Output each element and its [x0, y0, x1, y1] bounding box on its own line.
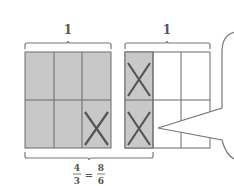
left-whole-label: 1	[64, 23, 72, 37]
left-whole-grid	[25, 52, 111, 148]
bottom-brace	[25, 152, 153, 160]
right-whole-label: 1	[163, 23, 171, 37]
equals-sign: =	[85, 169, 93, 180]
right-numerator: 8	[98, 163, 104, 173]
top-brace-right	[125, 41, 210, 49]
right-denominator: 6	[98, 176, 104, 186]
fraction-diagram: 1 1 4	[0, 0, 234, 186]
left-numerator: 4	[74, 163, 80, 173]
fraction-equation: 4 3 = 8 6	[73, 163, 105, 186]
top-brace-left	[25, 41, 111, 49]
left-denominator: 3	[74, 176, 80, 186]
